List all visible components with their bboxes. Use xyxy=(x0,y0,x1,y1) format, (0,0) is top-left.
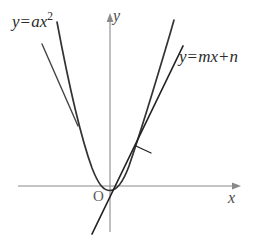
line-equation-operator: = xyxy=(187,47,199,66)
parabola-curve xyxy=(57,20,174,191)
tangent-line xyxy=(92,46,183,234)
line-equation-term2: n xyxy=(230,47,239,66)
parabola-equation-lhs: y xyxy=(12,12,20,31)
x-axis-label: x xyxy=(228,190,235,206)
y-axis xyxy=(107,13,114,232)
parabola-equation-label: y=ax2 xyxy=(12,11,53,30)
line-equation-lhs: y xyxy=(179,47,187,66)
figure-canvas xyxy=(0,0,268,246)
line-equation-plus-operator: + xyxy=(218,47,230,66)
tangency-tick-mark xyxy=(136,146,151,153)
origin-label: O xyxy=(93,189,104,204)
parabola-equation-rhs-base: ax xyxy=(31,12,47,31)
parabola-equation-operator: = xyxy=(20,12,32,31)
line-equation-term1: mx xyxy=(198,47,218,66)
y-axis-label: y xyxy=(113,8,120,24)
math-figure-parabola-tangent: y=ax2 y=mx+n y x O xyxy=(0,0,268,246)
line-equation-label: y=mx+n xyxy=(179,48,238,65)
parabola-equation-exponent: 2 xyxy=(47,10,53,23)
x-axis xyxy=(18,183,241,190)
parabola-label-leader-line xyxy=(42,44,78,126)
